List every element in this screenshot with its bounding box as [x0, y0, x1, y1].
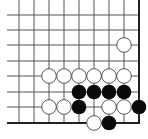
white-stone: [117, 69, 132, 84]
white-stone: [57, 100, 72, 115]
black-stone: [102, 116, 117, 131]
go-board: [0, 0, 148, 139]
black-stone: [102, 85, 117, 100]
white-stone: [72, 69, 87, 84]
white-stone: [117, 100, 132, 115]
white-stone: [57, 69, 72, 84]
black-stone: [117, 85, 132, 100]
black-stone: [132, 100, 147, 115]
white-stone: [87, 116, 102, 131]
white-stone: [87, 69, 102, 84]
white-stone: [102, 100, 117, 115]
white-stone: [42, 69, 57, 84]
white-stone: [42, 100, 57, 115]
white-stone: [117, 38, 132, 53]
black-stone: [72, 100, 87, 115]
white-stone: [102, 69, 117, 84]
black-stone: [72, 85, 87, 100]
black-stone: [87, 85, 102, 100]
